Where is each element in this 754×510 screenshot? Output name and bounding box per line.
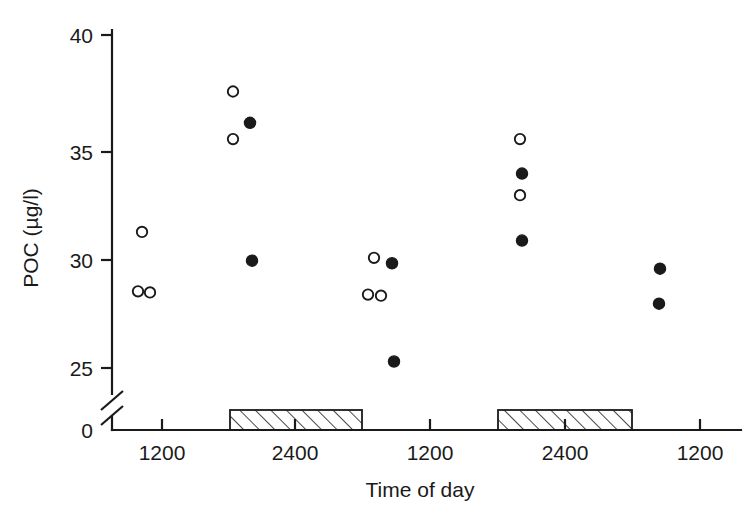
night-period-1	[230, 410, 362, 430]
y-tick-labels: 40 35 30 25 0	[70, 24, 93, 442]
y-tick-label-30: 30	[70, 249, 93, 272]
data-point-open	[376, 290, 386, 300]
y-tick-marks	[101, 35, 112, 368]
x-tick-labels: 1200 2400 1200 2400 1200	[139, 441, 724, 464]
data-point-filled	[388, 356, 399, 367]
data-point-filled	[386, 258, 397, 269]
data-point-filled	[246, 255, 257, 266]
x-tick-label-5: 1200	[677, 441, 724, 464]
y-tick-label-35: 35	[70, 141, 93, 164]
data-point-open	[228, 86, 238, 96]
y-tick-label-40: 40	[70, 24, 93, 47]
data-point-open	[228, 134, 238, 144]
y-tick-label-25: 25	[70, 357, 93, 380]
data-point-open	[515, 134, 525, 144]
data-point-filled	[244, 117, 255, 128]
data-point-open	[137, 227, 147, 237]
y-axis-title: POC (µg/l)	[19, 188, 42, 288]
x-tick-label-4: 2400	[542, 441, 589, 464]
data-point-filled	[654, 263, 665, 274]
x-tick-label-1: 1200	[139, 441, 186, 464]
data-point-open	[363, 289, 373, 299]
data-point-filled	[516, 235, 527, 246]
data-point-open	[145, 287, 155, 297]
scatter-plot: 40 35 30 25 0 1200 2400 1200 2400 1200 T…	[0, 0, 754, 510]
x-axis-title: Time of day	[366, 478, 475, 501]
night-period-2	[498, 410, 632, 430]
y-tick-label-0: 0	[81, 419, 93, 442]
data-point-open	[515, 190, 525, 200]
data-point-open	[133, 286, 143, 296]
chart-figure: 40 35 30 25 0 1200 2400 1200 2400 1200 T…	[0, 0, 754, 510]
data-point-open	[369, 253, 379, 263]
axes	[101, 30, 741, 430]
data-point-filled	[516, 168, 527, 179]
data-point-filled	[653, 298, 664, 309]
x-tick-label-3: 1200	[407, 441, 454, 464]
data-markers	[133, 86, 666, 367]
x-tick-label-2: 2400	[272, 441, 319, 464]
